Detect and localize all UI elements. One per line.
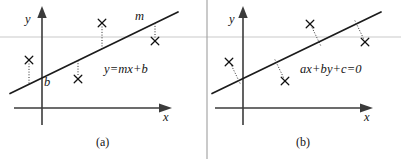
panel-a-x-axis-label: x [163,111,169,124]
figure-two-panel-line-fitting: y x m b y=mx+b (a) y x ax+by+c=0 (b) [0,0,401,159]
panel-b-x-axis-label: x [364,111,370,124]
panel-b-fitted-line [212,12,381,94]
panel-b-equation-label: ax+by+c=0 [300,63,362,76]
panel-a-intercept-label: b [44,76,50,89]
panel-a-point-4-marker-icon [151,37,159,45]
panel-a-caption: (a) [96,136,109,148]
panel-b-caption: (b) [296,136,310,148]
panel-a-equation-label: y=mx+b [104,63,148,76]
figure-canvas [0,0,401,159]
panel-a-point-2-marker-icon [74,75,82,83]
panel-a-fitted-line [10,12,178,94]
panel-b-y-axis-label: y [229,13,235,26]
panel-a-point-3-marker-icon [98,19,106,27]
panel-a-graph [10,6,178,125]
panel-b-residual-2 [275,59,284,77]
panel-a-y-axis-arrow-icon [37,6,46,18]
panel-b-y-axis-arrow-icon [238,6,247,18]
panel-a-slope-label: m [135,10,144,23]
panel-b-point-3-marker-icon [306,20,314,28]
panel-a-y-axis-label: y [25,13,31,26]
panel-a-point-1-marker-icon [25,56,33,64]
panel-b-point-2-marker-icon [281,77,289,85]
panel-b-point-4-marker-icon [361,38,369,46]
panel-b-point-1-marker-icon [225,58,233,66]
